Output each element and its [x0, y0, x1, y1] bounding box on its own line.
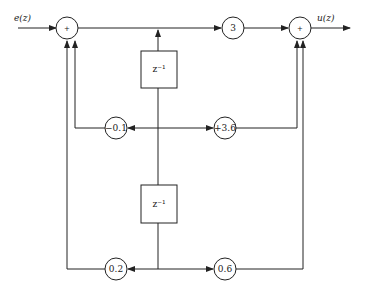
feedback-1-label: −0.1: [105, 123, 127, 133]
block-diagram: e(z) + 3 + u(z) z⁻¹ z⁻¹ −0.1: [0, 0, 365, 296]
output-label: u(z): [317, 13, 335, 23]
delay-block-2: z⁻¹: [141, 185, 177, 223]
feedback-1-path: [75, 41, 105, 128]
gain-node-feedback-2: 0.2: [105, 258, 127, 280]
feedforward-1-label: +3.6: [214, 123, 236, 133]
output-signal: u(z): [311, 13, 350, 28]
feedback-2-label: 0.2: [109, 264, 123, 274]
feedforward-2-label: 0.6: [218, 264, 233, 274]
forward-gain-label: 3: [230, 23, 236, 33]
feedforward-2-path: [236, 41, 303, 269]
gain-node-feedback-1: −0.1: [105, 117, 127, 139]
input-signal: e(z): [14, 13, 56, 28]
summer-left-symbol: +: [64, 25, 70, 33]
feedforward-1-path: [236, 41, 297, 128]
delay-block-1: z⁻¹: [141, 51, 177, 88]
gain-node-3: 3: [222, 17, 244, 39]
feedback-2-path: [67, 41, 105, 269]
gain-node-feedforward-1: +3.6: [214, 117, 236, 139]
summing-junction-left: +: [56, 17, 78, 39]
delay-1-label: z⁻¹: [152, 64, 165, 74]
gain-node-feedforward-2: 0.6: [214, 258, 236, 280]
delay-2-label: z⁻¹: [152, 199, 165, 209]
input-label: e(z): [14, 13, 32, 23]
summing-junction-right: +: [289, 17, 311, 39]
summer-right-symbol: +: [297, 25, 303, 33]
